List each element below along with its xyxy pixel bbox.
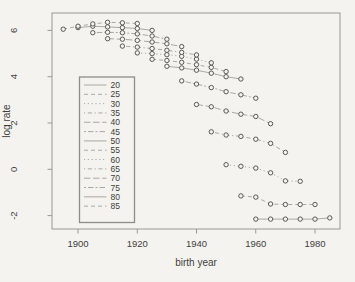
y-tick-label: 0: [8, 167, 19, 172]
data-point: [120, 37, 124, 41]
data-point: [120, 44, 124, 48]
data-point: [239, 77, 243, 81]
series-line-age-80: [78, 26, 152, 30]
series-line-age-50: [167, 66, 241, 79]
series-line-age-65: [122, 46, 196, 55]
data-point: [254, 137, 258, 141]
data-point: [105, 30, 109, 34]
data-point: [239, 134, 243, 138]
x-tick-label: 1900: [67, 238, 88, 249]
x-axis: 19001920194019601980: [67, 229, 325, 249]
series-line-age-70: [108, 39, 182, 47]
data-point: [105, 20, 109, 24]
data-point: [254, 217, 258, 221]
data-point: [180, 50, 184, 54]
data-point: [180, 79, 184, 83]
data-point: [209, 71, 213, 75]
series-line-age-20: [256, 218, 330, 219]
data-point: [105, 37, 109, 41]
data-point: [283, 217, 287, 221]
data-point: [135, 21, 139, 25]
data-point: [180, 44, 184, 48]
data-point: [254, 114, 258, 118]
data-point: [120, 31, 124, 35]
data-point: [150, 28, 154, 32]
data-point: [268, 171, 272, 175]
data-point: [194, 53, 198, 57]
series-line-age-35: [211, 132, 285, 153]
data-point: [150, 34, 154, 38]
data-point: [298, 202, 302, 206]
data-point: [165, 48, 169, 52]
data-point: [254, 195, 258, 199]
data-point: [239, 112, 243, 116]
y-tick-label: 4: [8, 74, 19, 79]
data-point: [268, 122, 272, 126]
data-point: [209, 85, 213, 89]
x-tick-label: 1920: [127, 238, 148, 249]
data-point: [313, 202, 317, 206]
data-point: [254, 166, 258, 170]
data-point: [224, 69, 228, 73]
data-point: [209, 65, 213, 69]
data-point: [165, 42, 169, 46]
data-point: [150, 46, 154, 50]
data-point: [194, 62, 198, 66]
data-point: [224, 109, 228, 113]
data-point: [150, 51, 154, 55]
data-point: [298, 179, 302, 183]
data-point: [209, 61, 213, 65]
data-point: [239, 194, 243, 198]
data-point: [135, 26, 139, 30]
data-point: [239, 93, 243, 97]
data-point: [180, 60, 184, 64]
data-point: [209, 130, 213, 134]
x-tick-label: 1980: [304, 238, 325, 249]
x-tick-label: 1960: [245, 238, 266, 249]
data-point: [165, 64, 169, 68]
data-point: [194, 68, 198, 72]
data-point: [268, 202, 272, 206]
series-line-age-30: [226, 165, 300, 182]
data-point: [135, 45, 139, 49]
y-tick-label: 6: [8, 28, 19, 33]
data-point: [180, 66, 184, 70]
data-point: [76, 24, 80, 28]
data-point: [224, 133, 228, 137]
data-point: [135, 38, 139, 42]
data-point: [268, 141, 272, 145]
series-line-age-55: [152, 59, 226, 71]
data-point: [283, 150, 287, 154]
series-line-age-40: [197, 105, 271, 124]
data-point: [135, 32, 139, 36]
x-axis-label: birth year: [175, 257, 217, 268]
data-point: [224, 75, 228, 79]
data-point: [254, 96, 258, 100]
data-point: [194, 82, 198, 86]
series-line-age-25: [241, 196, 315, 205]
data-point: [298, 217, 302, 221]
cohort-rate-line-chart: 19001920194019601980 -20246 202530354045…: [0, 0, 355, 282]
data-point: [135, 51, 139, 55]
series-line-age-45: [182, 81, 256, 98]
data-point: [165, 58, 169, 62]
data-point: [120, 21, 124, 25]
legend-entry-label: 85: [111, 201, 121, 211]
data-point: [194, 102, 198, 106]
data-point: [268, 217, 272, 221]
y-axis-label: log rate: [1, 104, 12, 138]
legend-box: 2025303540455055606570758085: [80, 77, 135, 223]
data-point: [313, 217, 317, 221]
data-point: [209, 105, 213, 109]
data-point: [150, 40, 154, 44]
data-point: [150, 57, 154, 61]
data-point: [120, 25, 124, 29]
data-point: [105, 25, 109, 29]
data-point: [165, 37, 169, 41]
series-line-age-75: [93, 32, 167, 39]
data-point: [224, 90, 228, 94]
data-point: [239, 164, 243, 168]
x-tick-label: 1940: [186, 238, 207, 249]
data-point: [283, 179, 287, 183]
data-point: [91, 31, 95, 35]
